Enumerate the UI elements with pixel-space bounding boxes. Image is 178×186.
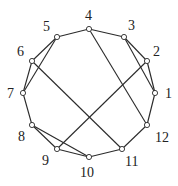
node-8 <box>29 122 34 127</box>
edge-5-7 <box>23 37 57 93</box>
node-label-7: 7 <box>7 86 14 101</box>
edge-6-11 <box>32 61 122 149</box>
node-label-5: 5 <box>43 19 50 34</box>
node-label-11: 11 <box>125 154 138 169</box>
edge-layer <box>23 29 155 157</box>
node-label-2: 2 <box>153 44 160 59</box>
node-2 <box>144 58 149 63</box>
edge-4-12 <box>89 29 147 125</box>
edge-1-2 <box>147 61 155 93</box>
node-10 <box>86 154 91 159</box>
edge-1-3 <box>124 37 155 93</box>
node-3 <box>121 34 126 39</box>
node-1 <box>152 90 157 95</box>
node-7 <box>20 90 25 95</box>
node-12 <box>144 122 149 127</box>
node-6 <box>29 58 34 63</box>
node-label-4: 4 <box>85 8 92 23</box>
edge-12-1 <box>147 93 155 125</box>
node-label-6: 6 <box>17 44 24 59</box>
node-label-1: 1 <box>165 86 172 101</box>
node-label-12: 12 <box>155 130 169 145</box>
edge-7-8 <box>23 93 32 125</box>
graph-diagram: 123456789101112 <box>0 0 178 186</box>
edge-9-10 <box>57 149 89 157</box>
node-11 <box>119 146 124 151</box>
node-label-3: 3 <box>128 18 135 33</box>
node-9 <box>54 146 59 151</box>
edge-2-9 <box>57 61 147 149</box>
node-label-10: 10 <box>80 165 94 180</box>
edge-3-4 <box>89 29 124 37</box>
edge-10-11 <box>89 149 122 157</box>
node-label-8: 8 <box>18 129 25 144</box>
node-4 <box>86 26 91 31</box>
edge-6-7 <box>23 61 32 93</box>
node-layer <box>20 26 157 159</box>
edge-11-12 <box>122 125 147 149</box>
node-label-9: 9 <box>42 153 49 168</box>
node-5 <box>54 34 59 39</box>
edge-8-10 <box>32 125 89 157</box>
edge-4-5 <box>57 29 89 37</box>
